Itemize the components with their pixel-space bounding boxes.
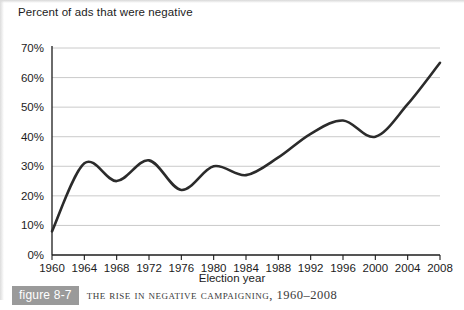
y-tick-label-50: 50% — [10, 101, 44, 113]
y-tick-label-40: 40% — [10, 131, 44, 143]
figure-caption-row: figure 8-7 The Rise in Negative Campaign… — [12, 286, 337, 305]
y-tick-label-10: 10% — [10, 219, 44, 231]
line-chart-svg — [0, 0, 464, 272]
y-tick-label-60: 60% — [10, 72, 44, 84]
plot-area: 0%10%20%30%40%50%60%70% 1960196419681972… — [0, 0, 464, 272]
figure-caption-title: The Rise in Negative Campaigning, 1960–2… — [87, 288, 338, 303]
y-tick-label-70: 70% — [10, 42, 44, 54]
y-tick-label-0: 0% — [10, 249, 44, 261]
y-tick-label-20: 20% — [10, 190, 44, 202]
y-tick-label-30: 30% — [10, 160, 44, 172]
figure-container: Percent of ads that were negative 0%10%2… — [0, 0, 464, 310]
data-series-line — [52, 63, 440, 232]
x-axis-title: Election year — [0, 272, 464, 284]
figure-number-badge: figure 8-7 — [12, 286, 79, 305]
